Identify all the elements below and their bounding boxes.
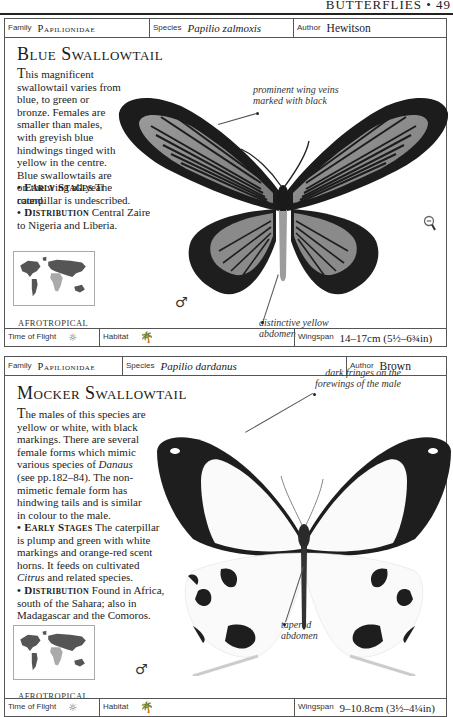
entry-title: Mocker Swallowtail [17, 383, 187, 404]
species-value: Papilio dardanus [160, 360, 236, 372]
world-map-icon [14, 626, 94, 679]
palm-tree-icon: 🌴 [140, 701, 154, 714]
annotation-wing-veins: prominent wing veins marked with black [253, 84, 343, 106]
annotation-tapered-abdomen: tapered abdomen [281, 619, 341, 641]
magnifier-minus-icon[interactable] [423, 215, 437, 235]
distribution-heading: • Distribution [17, 206, 89, 218]
early-stages: • Early Stages The caterpillar is plump … [17, 521, 167, 622]
wingspan-value: 9–10.8cm (3½–4¼in) [340, 702, 435, 714]
entry-header: Family Papilionidae Species Papilio zalm… [5, 19, 446, 38]
time-of-flight-label: Time of Flight [8, 332, 56, 341]
entry-mocker-swallowtail: Family Papilionidae Species Papilio dard… [4, 356, 447, 717]
author-label: Author [297, 23, 321, 32]
family-value: Papilionidae [38, 23, 96, 34]
sun-icon: ☼ [68, 332, 77, 343]
author-cell: Author Hewitson [294, 19, 446, 37]
annotation-dot [313, 393, 316, 396]
sun-icon: ☼ [68, 702, 77, 713]
family-cell: Family Papilionidae [5, 357, 123, 375]
entry-footer: Time of Flight ☼ Habitat 🌴 Wingspan 14–1… [5, 328, 446, 346]
habitat-cell: Habitat 🌴 [100, 699, 295, 716]
species-label: Species [126, 361, 154, 370]
family-label: Family [8, 361, 32, 370]
annotation-dot [283, 623, 286, 626]
species-label: Species [153, 23, 181, 32]
habitat-cell: Habitat 🌴 [100, 329, 295, 346]
wingspan-cell: Wingspan 9–10.8cm (3½–4¼in) [295, 699, 446, 716]
region-label: AFROTROPICAL [18, 318, 88, 328]
palm-tree-icon: 🌴 [140, 331, 154, 344]
running-head: BUTTERFLIES • 49 [0, 0, 453, 14]
annotation-dot [261, 321, 264, 324]
time-of-flight-label: Time of Flight [8, 702, 56, 711]
distribution-heading: • Distribution [17, 584, 89, 596]
description-text: The males of this species are yellow or … [17, 408, 151, 521]
annotation-dark-fringes: dark fringes on the forewings of the mal… [301, 367, 401, 389]
world-map-icon [14, 252, 94, 305]
wingspan-label: Wingspan [298, 702, 334, 711]
habitat-label: Habitat [103, 702, 128, 711]
early-stages-heading: • Early Stages [17, 521, 92, 533]
range-map [13, 625, 95, 680]
wingspan-cell: Wingspan 14–17cm (5½–6¾in) [295, 329, 446, 346]
species-cell: Species Papilio zalmoxis [150, 19, 294, 37]
top-rule [0, 13, 453, 15]
family-cell: Family Papilionidae [5, 19, 150, 37]
time-of-flight-cell: Time of Flight ☼ [5, 329, 100, 346]
author-value: Hewitson [327, 22, 371, 34]
habitat-label: Habitat [103, 332, 128, 341]
description: The males of this species are yellow or … [17, 408, 151, 521]
range-map [13, 251, 95, 306]
early-stages-heading: • Early Stages [17, 181, 92, 193]
family-label: Family [8, 23, 32, 32]
family-value: Papilionidae [38, 361, 96, 372]
entry-footer: Time of Flight ☼ Habitat 🌴 Wingspan 9–10… [5, 698, 446, 716]
wingspan-value: 14–17cm (5½–6¾in) [340, 332, 433, 344]
species-value: Papilio zalmoxis [187, 22, 261, 34]
wingspan-label: Wingspan [298, 332, 334, 341]
entry-title: Blue Swallowtail [17, 44, 163, 65]
time-of-flight-cell: Time of Flight ☼ [5, 699, 100, 716]
male-symbol-icon: ♂ [135, 661, 148, 677]
entry-blue-swallowtail: Family Papilionidae Species Papilio zalm… [4, 18, 447, 347]
